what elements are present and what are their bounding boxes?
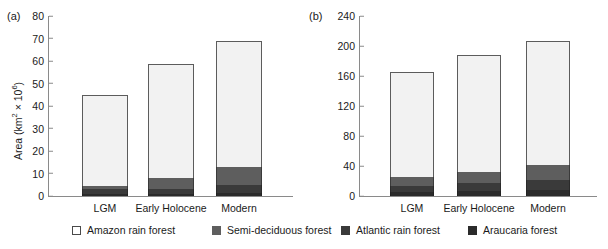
y-axis-tick-a-30: 30 bbox=[32, 123, 49, 134]
bar-segment-amazon[interactable] bbox=[526, 41, 570, 166]
y-axis-tick-a-70: 70 bbox=[32, 33, 49, 44]
bar-segment-atlantic[interactable] bbox=[390, 186, 434, 193]
y-axis-tickmark bbox=[49, 83, 53, 84]
x-axis-tick-label: Early Holocene bbox=[443, 202, 514, 214]
bar-a-early-holocene[interactable] bbox=[148, 16, 194, 196]
y-axis-tick-b-80: 80 bbox=[343, 131, 360, 142]
x-axis-tick-label: LGM bbox=[401, 202, 424, 214]
y-axis-tickmark bbox=[49, 128, 53, 129]
y-axis-tick-a-10: 10 bbox=[32, 168, 49, 179]
y-axis-tick-a-0: 0 bbox=[38, 191, 49, 202]
y-axis-tickmark bbox=[360, 105, 364, 106]
bar-segment-amazon[interactable] bbox=[457, 55, 501, 172]
y-axis-tick-b-240: 240 bbox=[337, 11, 360, 22]
y-axis-tickmark bbox=[49, 60, 53, 61]
bar-segment-semi[interactable] bbox=[216, 167, 262, 185]
panel-b-letter: (b) bbox=[309, 10, 322, 22]
chart-panel-b: (b) Carbon storage (Gt) 0408012016020024… bbox=[304, 0, 608, 220]
y-axis-tick-b-200: 200 bbox=[337, 41, 360, 52]
y-axis-tickmark bbox=[360, 45, 364, 46]
chart-panel-a: (a) Area (km2 × 106) 01020304050607080LG… bbox=[0, 0, 304, 220]
legend-item-semi[interactable]: Semi-deciduous forest bbox=[212, 224, 331, 236]
bar-segment-atlantic[interactable] bbox=[526, 180, 570, 190]
legend-label: Araucaria forest bbox=[483, 224, 557, 236]
panel-a-plot-area: 01020304050607080LGMEarly HoloceneModern bbox=[48, 16, 293, 197]
x-axis-tick-label: Modern bbox=[221, 202, 257, 214]
bar-segment-semi[interactable] bbox=[457, 172, 501, 183]
y-axis-tick-a-40: 40 bbox=[32, 101, 49, 112]
y-axis-tickmark bbox=[360, 135, 364, 136]
y-axis-tick-b-160: 160 bbox=[337, 71, 360, 82]
y-axis-tick-b-0: 0 bbox=[349, 191, 360, 202]
y-axis-tickmark bbox=[360, 165, 364, 166]
legend-item-araucaria[interactable]: Araucaria forest bbox=[468, 224, 557, 236]
bar-segment-semi[interactable] bbox=[390, 177, 434, 185]
y-axis-tick-a-20: 20 bbox=[32, 146, 49, 157]
bar-segment-araucaria[interactable] bbox=[457, 191, 501, 196]
y-axis-tickmark bbox=[360, 15, 364, 16]
legend-label: Atlantic rain forest bbox=[356, 224, 440, 236]
y-axis-tickmark bbox=[49, 15, 53, 16]
x-axis-tick-label: Early Holocene bbox=[135, 202, 206, 214]
bar-b-lgm[interactable] bbox=[390, 16, 434, 196]
bar-b-early-holocene[interactable] bbox=[457, 16, 501, 196]
y-axis-tickmark bbox=[49, 105, 53, 106]
bar-segment-atlantic[interactable] bbox=[457, 183, 501, 191]
y-axis-tick-b-40: 40 bbox=[343, 161, 360, 172]
y-axis-tickmark bbox=[360, 195, 364, 196]
legend-label: Amazon rain forest bbox=[87, 224, 175, 236]
legend-item-amazon[interactable]: Amazon rain forest bbox=[72, 224, 175, 236]
y-axis-tickmark bbox=[49, 150, 53, 151]
bar-segment-amazon[interactable] bbox=[390, 72, 434, 178]
y-axis-tickmark bbox=[49, 38, 53, 39]
bar-segment-araucaria[interactable] bbox=[526, 190, 570, 196]
y-axis-tickmark bbox=[49, 195, 53, 196]
bar-segment-araucaria[interactable] bbox=[82, 194, 128, 196]
legend-label: Semi-deciduous forest bbox=[227, 224, 331, 236]
x-axis-tick-label: LGM bbox=[94, 202, 117, 214]
panel-a-letter: (a) bbox=[7, 10, 20, 22]
bar-segment-araucaria[interactable] bbox=[216, 193, 262, 196]
legend: Amazon rain forestSemi-deciduous forestA… bbox=[0, 222, 608, 249]
bar-segment-araucaria[interactable] bbox=[390, 192, 434, 196]
figure: (a) Area (km2 × 106) 01020304050607080LG… bbox=[0, 0, 608, 249]
bar-segment-atlantic[interactable] bbox=[216, 185, 262, 193]
y-axis-tick-a-60: 60 bbox=[32, 56, 49, 67]
legend-swatch-semi-icon bbox=[212, 226, 221, 235]
legend-swatch-amazon-icon bbox=[72, 226, 81, 235]
bar-a-lgm[interactable] bbox=[82, 16, 128, 196]
x-axis-tick-label: Modern bbox=[530, 202, 566, 214]
y-axis-tick-a-80: 80 bbox=[32, 11, 49, 22]
panel-b-plot-area: 04080120160200240LGMEarly HoloceneModern bbox=[359, 16, 597, 197]
bar-b-modern[interactable] bbox=[526, 16, 570, 196]
legend-item-atlantic[interactable]: Atlantic rain forest bbox=[341, 224, 440, 236]
bar-segment-amazon[interactable] bbox=[148, 64, 194, 178]
bar-segment-amazon[interactable] bbox=[216, 41, 262, 167]
bar-segment-semi[interactable] bbox=[148, 178, 194, 189]
bar-segment-semi[interactable] bbox=[526, 165, 570, 180]
legend-swatch-atlantic-icon bbox=[341, 226, 350, 235]
legend-swatch-araucaria-icon bbox=[468, 226, 477, 235]
y-axis-tickmark bbox=[360, 75, 364, 76]
y-axis-tick-a-50: 50 bbox=[32, 78, 49, 89]
bar-segment-amazon[interactable] bbox=[82, 95, 128, 186]
bar-a-modern[interactable] bbox=[216, 16, 262, 196]
y-axis-tick-b-120: 120 bbox=[337, 101, 360, 112]
y-axis-tickmark bbox=[49, 173, 53, 174]
bar-segment-araucaria[interactable] bbox=[148, 194, 194, 196]
panel-a-y-axis-label: Area (km2 × 106) bbox=[10, 82, 24, 160]
